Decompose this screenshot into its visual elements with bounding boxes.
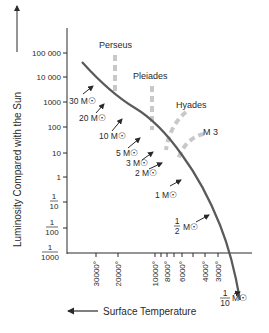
mass-label: 1 M☉ (155, 190, 177, 200)
hyades-track (166, 112, 186, 150)
x-tick-label: 20000° (114, 261, 123, 286)
y-ticks (63, 53, 67, 228)
x-tick-label: 4000° (201, 261, 210, 282)
mass-label: 5 M☉ (116, 148, 138, 158)
x-tick-label: 30000° (92, 261, 101, 286)
cluster-label-perseus: Perseus (99, 40, 133, 50)
svg-text:10: 10 (220, 298, 230, 308)
y-tick-labels: 100 000 10 000 1000 100 10 1 1 10 1 100 … (32, 49, 61, 262)
svg-text:1: 1 (175, 216, 180, 226)
y-axis: 100 000 10 000 1000 100 10 1 1 10 1 100 … (12, 6, 67, 262)
mass-label: 2 M☉ (135, 168, 157, 178)
y-tick-label: 10 (52, 149, 61, 158)
x-tick-label: 8000° (163, 261, 172, 282)
cluster-label-hyades: Hyades (176, 100, 207, 110)
y-tick-label-fraction: 1 100 (45, 218, 59, 237)
svg-text:M☉: M☉ (232, 293, 247, 303)
mass-label: 10 M☉ (99, 131, 126, 141)
hr-diagram: 100 000 10 000 1000 100 10 1 1 10 1 100 … (0, 0, 269, 333)
x-tick-labels: 30000° 20000° 10000° 8000° 6000° 4000° 3… (92, 261, 223, 286)
y-tick-label: 1 (57, 173, 62, 182)
mass-label: 20 M☉ (79, 113, 106, 123)
y-tick-label: 100 000 (32, 49, 61, 58)
mass-label-half: 1 2 M☉ (174, 216, 198, 236)
svg-text:1: 1 (50, 218, 55, 227)
y-tick-label: 1000 (43, 98, 61, 107)
y-axis-label: Luminosity Compared with the Sun (12, 92, 23, 247)
svg-text:2: 2 (175, 226, 180, 236)
svg-text:M☉: M☉ (183, 222, 198, 232)
mass-label: 3 M☉ (126, 158, 148, 168)
x-tick-label: 3000° (214, 261, 223, 282)
mass-label-tenth: 1 10 M☉ (220, 288, 247, 308)
y-tick-label: 100 (48, 123, 62, 132)
y-tick-label-fraction: 1 10 (50, 192, 59, 211)
x-axis-label: Surface Temperature (103, 306, 197, 317)
mass-label: 30 M☉ (69, 96, 96, 106)
cluster-label-pleiades: Pleiades (133, 71, 168, 81)
x-ticks (96, 253, 218, 257)
svg-text:1: 1 (48, 243, 53, 252)
x-tick-label: 6000° (178, 261, 187, 282)
y-tick-label-fraction: 1 1000 (41, 243, 59, 262)
svg-text:1: 1 (223, 288, 228, 298)
svg-text:1000: 1000 (41, 253, 59, 262)
svg-text:100: 100 (45, 228, 59, 237)
x-tick-label: 10000° (151, 261, 160, 286)
svg-text:1: 1 (52, 192, 57, 201)
cluster-label-m3: M 3 (203, 127, 218, 137)
svg-text:10: 10 (50, 202, 59, 211)
y-tick-label: 10 000 (37, 73, 62, 82)
